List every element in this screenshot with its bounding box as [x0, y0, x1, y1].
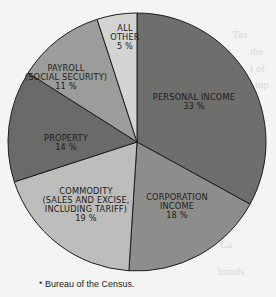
- label-commodity: COMMODITY (SALES AND EXCISE, INCLUDING T…: [42, 187, 129, 223]
- label-property: PROPERTY 14 %: [44, 134, 88, 152]
- footnote: * Bureau of the Census.: [39, 279, 135, 289]
- label-all-other: ALL OTHER 5 %: [110, 24, 139, 51]
- label-payroll: PAYROLL (SOCIAL SECURITY) 11 %: [25, 64, 108, 91]
- label-corporation-income: CORPORATION INCOME 18 %: [146, 193, 208, 220]
- label-personal-income: PERSONAL INCOME 33 %: [153, 93, 235, 111]
